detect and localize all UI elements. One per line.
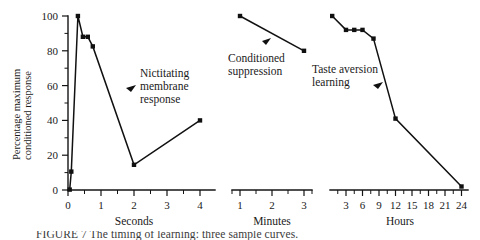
minutes-annotation-line1: Conditioned [228,52,285,64]
seconds-tick-label-3: 3 [164,199,170,211]
seconds-leader-arrow-icon [126,85,136,92]
hours-tick-label-24: 24 [456,199,468,211]
hours-point-6 [459,184,463,188]
seconds-point-5 [91,44,95,48]
hours-point-2 [352,28,356,32]
y-axis-group: 0 20 40 60 80 100 Percentage maximum con… [11,10,68,196]
minutes-axis-title: Minutes [253,215,291,227]
seconds-tick-label-0: 0 [65,199,71,211]
panel-minutes: 1 2 3 Minutes Conditioned suppression [228,14,312,227]
minutes-point-0 [238,14,242,18]
hours-tick-label-6: 6 [360,199,366,211]
seconds-point-3 [81,35,85,39]
panel-hours: 3 6 9 12 15 18 21 24 Hours Taste aversio… [312,14,468,227]
minutes-tick-label-3: 3 [301,199,307,211]
seconds-annotation-line3: response [140,93,180,106]
hours-point-3 [360,28,364,32]
hours-point-0 [330,14,334,18]
hours-tick-label-15: 15 [407,199,419,211]
hours-tick-label-9: 9 [376,199,382,211]
minutes-leader-arrow-icon [262,38,271,45]
y-tick-label-40: 40 [47,114,59,126]
y-axis-title-line2: conditioned response [22,71,33,160]
seconds-point-1 [69,169,73,173]
seconds-point-4 [86,35,90,39]
seconds-annotation-line1: Nictitating [140,67,189,80]
y-tick-label-80: 80 [47,45,59,57]
hours-point-5 [393,116,397,120]
seconds-point-0 [68,187,72,191]
seconds-point-2 [76,14,80,18]
hours-tick-label-3: 3 [343,199,349,211]
figure-caption-strip: FIGURE 7 The timing of learning: three s… [0,231,480,240]
hours-point-1 [344,28,348,32]
seconds-point-7 [198,118,202,122]
learning-timing-chart: 0 20 40 60 80 100 Percentage maximum con… [0,0,480,240]
y-tick-label-20: 20 [47,149,59,161]
minutes-tick-label-2: 2 [269,199,275,211]
hours-point-4 [371,36,375,40]
y-tick-label-0: 0 [53,184,59,196]
figure-caption-text: FIGURE 7 The timing of learning: three s… [36,231,298,240]
seconds-annotation-line2: membrane [140,80,189,92]
minutes-data-line [240,16,304,51]
seconds-axis-title: Seconds [115,215,154,227]
figure-root: 0 20 40 60 80 100 Percentage maximum con… [0,0,480,240]
seconds-tick-label-1: 1 [98,199,104,211]
hours-annotation-line2: learning [312,76,350,89]
seconds-point-6 [132,163,136,167]
hours-axis-title: Hours [386,215,415,227]
seconds-tick-label-4: 4 [197,199,203,211]
y-axis-title-line1: Percentage maximum [11,69,22,160]
seconds-tick-label-2: 2 [131,199,137,211]
hours-leader-arrow-icon [373,82,383,89]
minutes-annotation-line2: suppression [228,65,283,78]
minutes-tick-label-1: 1 [237,199,243,211]
hours-data-line [332,16,461,187]
hours-annotation-line1: Taste aversion [312,63,378,75]
y-tick-label-60: 60 [47,80,59,92]
y-tick-label-100: 100 [42,10,59,22]
hours-tick-label-18: 18 [423,199,435,211]
hours-tick-label-21: 21 [440,199,451,211]
panel-seconds: 0 1 2 3 4 Seconds Nictitating membrane r… [65,14,215,227]
minutes-point-1 [302,49,306,53]
hours-tick-label-12: 12 [390,199,401,211]
